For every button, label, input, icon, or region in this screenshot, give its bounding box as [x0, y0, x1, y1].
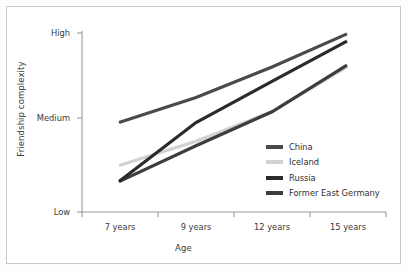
legend-item-russia[interactable]: Russia — [266, 170, 380, 186]
x-tick-label-7-years: 7 years — [85, 222, 155, 232]
x-tick-label-15-years: 15 years — [313, 222, 383, 232]
y-axis-title: Friendship complexity — [16, 54, 26, 164]
legend-item-iceland[interactable]: Iceland — [266, 155, 380, 171]
legend-item-former-east-germany[interactable]: Former East Germany — [266, 186, 380, 202]
x-tick-label-9-years: 9 years — [161, 222, 231, 232]
chart-figure: Friendship complexity Age High Medium Lo… — [0, 0, 408, 271]
x-axis-title: Age — [175, 243, 192, 253]
legend-label: China — [289, 142, 313, 152]
legend-label: Former East Germany — [289, 188, 380, 198]
y-tick-label-medium: Medium — [10, 113, 70, 123]
legend-swatch-icon — [266, 145, 283, 149]
legend-swatch-icon — [266, 176, 283, 180]
legend-label: Iceland — [289, 157, 319, 167]
x-tick-label-12-years: 12 years — [237, 222, 307, 232]
legend-label: Russia — [289, 173, 316, 183]
legend-swatch-icon — [266, 191, 283, 195]
legend-swatch-icon — [266, 160, 283, 164]
series-line-china — [119, 34, 347, 123]
chart-legend: China Iceland Russia Former East Germany — [266, 139, 380, 201]
y-tick-label-low: Low — [10, 207, 70, 217]
y-tick-label-high: High — [10, 28, 70, 38]
legend-item-china[interactable]: China — [266, 139, 380, 155]
